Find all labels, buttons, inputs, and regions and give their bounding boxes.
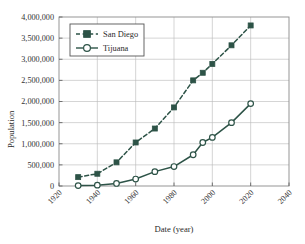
data-point-marker <box>75 183 81 189</box>
y-tick-label: 2,500,000 <box>21 76 54 85</box>
y-tick-label: 0 <box>50 182 54 191</box>
legend-label-san-diego: San Diego <box>103 30 138 39</box>
y-tick-label: 1,000,000 <box>21 140 54 149</box>
data-point-marker <box>133 176 139 182</box>
legend-entry-san-diego: San Diego <box>76 30 138 39</box>
data-point-marker <box>152 169 158 175</box>
data-point-marker <box>210 135 216 141</box>
legend-marker-tijuana <box>84 45 91 52</box>
data-point-marker <box>191 78 196 83</box>
data-point-marker <box>190 152 196 158</box>
y-tick-label: 1,500,000 <box>21 119 54 128</box>
data-point-marker <box>229 120 235 126</box>
legend-marker-san-diego <box>84 31 91 38</box>
y-tick-label: 2,000,000 <box>21 97 54 106</box>
data-point-marker <box>200 140 206 146</box>
data-point-marker <box>248 23 253 28</box>
legend-label-tijuana: Tijuana <box>103 44 129 53</box>
x-axis-title: Date (year) <box>155 224 194 234</box>
chart-legend: San Diego Tijuana <box>70 24 144 56</box>
population-line-chart: 0500,0001,000,0001,500,0002,000,0002,500… <box>0 0 305 244</box>
data-point-marker <box>171 164 177 170</box>
data-point-marker <box>95 182 101 188</box>
y-axis-title: Population <box>6 110 16 148</box>
y-tick-label: 500,000 <box>27 161 54 170</box>
data-point-marker <box>210 61 215 66</box>
y-tick-label: 3,000,000 <box>21 55 54 64</box>
chart-svg: 0500,0001,000,0001,500,0002,000,0002,500… <box>0 0 305 244</box>
y-tick-label: 4,000,000 <box>21 13 54 22</box>
data-point-marker <box>133 140 138 145</box>
data-point-marker <box>248 101 254 107</box>
data-point-marker <box>95 171 100 176</box>
data-point-marker <box>172 105 177 110</box>
data-point-marker <box>114 160 119 165</box>
data-point-marker <box>114 181 120 187</box>
data-point-marker <box>229 43 234 48</box>
y-tick-label: 3,500,000 <box>21 34 54 43</box>
data-point-marker <box>76 175 81 180</box>
data-point-marker <box>152 126 157 131</box>
data-point-marker <box>200 70 205 75</box>
